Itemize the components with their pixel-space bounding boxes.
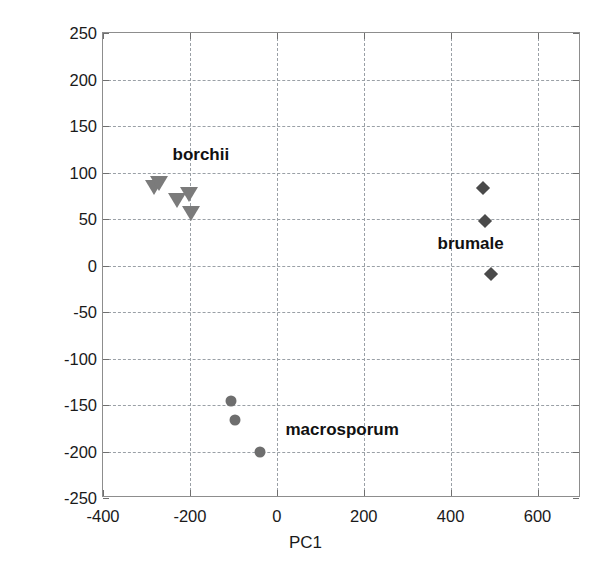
x-axis-tick-label: 200 (350, 507, 378, 526)
x-axis-tick (103, 33, 104, 39)
y-axis-tick (103, 498, 109, 499)
y-axis-tick-label: 100 (5, 163, 97, 182)
y-axis-tick (103, 405, 109, 406)
data-point-brumale (476, 181, 490, 195)
x-axis-title: PC1 (0, 533, 611, 553)
y-axis-tick (573, 312, 579, 313)
data-point-borchii (182, 206, 200, 221)
x-axis-tick-label: -400 (86, 507, 119, 526)
data-point-borchii (150, 176, 168, 191)
gridline-vertical (538, 33, 539, 496)
y-axis-tick-label: 150 (5, 117, 97, 136)
gridline-horizontal (103, 452, 579, 453)
series-label-borchii: borchii (173, 145, 230, 165)
gridline-horizontal (103, 80, 579, 81)
y-axis-tick (573, 33, 579, 34)
y-axis-tick-label: 50 (5, 210, 97, 229)
gridline-horizontal (103, 359, 579, 360)
data-point-macrosporum (230, 414, 241, 425)
gridline-vertical (277, 33, 278, 496)
scatter-plot-figure: 250200150100500-50-100-150-200-250 -400-… (0, 0, 611, 572)
y-axis-tick-label: 0 (5, 256, 97, 275)
series-label-macrosporum: macrosporum (286, 420, 399, 440)
plot-area: 250200150100500-50-100-150-200-250 -400-… (102, 32, 580, 497)
gridline-horizontal (103, 266, 579, 267)
y-axis-tick-label: -150 (5, 396, 97, 415)
y-axis-tick (103, 452, 109, 453)
gridline-horizontal (103, 219, 579, 220)
x-axis-tick (538, 33, 539, 39)
x-axis-tick (103, 490, 104, 496)
x-axis-tick (190, 33, 191, 39)
gridline-horizontal (103, 312, 579, 313)
y-axis-tick (573, 80, 579, 81)
x-axis-tick (451, 490, 452, 496)
x-axis-tick (364, 490, 365, 496)
y-axis-tick-label: -50 (5, 303, 97, 322)
y-axis-tick (573, 173, 579, 174)
y-axis-tick (103, 173, 109, 174)
x-axis-tick (451, 33, 452, 39)
y-axis-tick-label: -200 (5, 442, 97, 461)
x-axis-tick (190, 490, 191, 496)
x-axis-tick (277, 490, 278, 496)
y-axis-tick (103, 312, 109, 313)
y-axis-tick (573, 359, 579, 360)
x-axis-tick-label: -200 (173, 507, 206, 526)
x-axis-tick (364, 33, 365, 39)
gridline-vertical (451, 33, 452, 496)
y-axis-tick-label: -100 (5, 349, 97, 368)
x-axis-tick (277, 33, 278, 39)
y-axis-tick (573, 405, 579, 406)
y-axis-tick (573, 498, 579, 499)
data-point-brumale (484, 267, 498, 281)
gridline-horizontal (103, 173, 579, 174)
data-point-borchii (180, 187, 198, 202)
y-axis-tick (103, 266, 109, 267)
gridline-horizontal (103, 405, 579, 406)
y-axis-tick-label: 250 (5, 24, 97, 43)
x-axis-tick-label: 0 (272, 507, 281, 526)
x-axis-tick (538, 490, 539, 496)
y-axis-tick (103, 126, 109, 127)
y-axis-tick (103, 359, 109, 360)
y-axis-tick-label: -250 (5, 489, 97, 508)
y-axis-tick-label: 200 (5, 70, 97, 89)
data-point-macrosporum (225, 396, 236, 407)
y-axis-tick (573, 452, 579, 453)
y-axis-tick (103, 80, 109, 81)
data-point-brumale (477, 214, 491, 228)
y-axis-tick (103, 219, 109, 220)
y-axis-tick (573, 266, 579, 267)
series-label-brumale: brumale (438, 234, 504, 254)
data-point-macrosporum (254, 447, 265, 458)
gridline-horizontal (103, 126, 579, 127)
y-axis-tick (573, 126, 579, 127)
y-axis-tick (573, 219, 579, 220)
gridline-vertical (190, 33, 191, 496)
x-axis-tick-label: 400 (437, 507, 465, 526)
x-axis-tick-label: 600 (524, 507, 552, 526)
